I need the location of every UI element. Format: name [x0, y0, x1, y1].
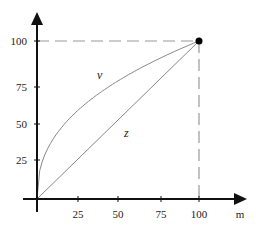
- x-axis-label: m: [236, 208, 245, 220]
- x-tick-label-100: 100: [191, 208, 208, 220]
- x-tick-label-75: 75: [156, 208, 168, 220]
- chart: v z 25 50 75 100 m 100 75 50 25: [0, 0, 256, 230]
- y-tick-label-100: 100: [11, 35, 28, 47]
- y-tick-label-25: 25: [16, 154, 28, 166]
- x-tick-label-25: 25: [73, 208, 85, 220]
- endpoint-marker: [196, 38, 203, 45]
- y-tick-label-75: 75: [16, 81, 28, 93]
- x-tick-label-50: 50: [113, 208, 125, 220]
- x-axis-arrow-icon: [234, 193, 247, 205]
- series-z-line: [37, 41, 199, 199]
- series-v-label: v: [97, 68, 103, 82]
- y-axis-arrow-icon: [31, 12, 43, 25]
- y-tick-label-50: 50: [16, 118, 28, 130]
- series-z-label: z: [123, 126, 129, 140]
